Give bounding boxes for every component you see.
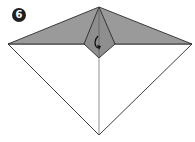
origami-diagram xyxy=(0,0,195,142)
